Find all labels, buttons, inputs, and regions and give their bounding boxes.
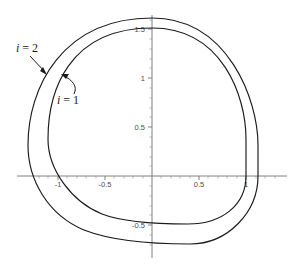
y-tick-label: 0.5 [135, 123, 145, 132]
y-tick-labels: -0.5 0.5 1 1.5 [132, 25, 145, 230]
x-tick-label: 0.5 [194, 180, 204, 189]
x-tick-label: -0.5 [99, 180, 112, 189]
x-tick-labels: -1 -0.5 0.5 1 [55, 180, 248, 189]
annotation-i2-label: i= 2 [16, 41, 38, 55]
y-tick-label: 1 [141, 74, 145, 83]
curve-i1 [48, 28, 246, 224]
annotation-i2-value: = 2 [22, 41, 38, 55]
annotation-i2-symbol: i [16, 41, 19, 55]
annotation-i1-value: = 1 [63, 93, 79, 107]
annotation-i1-label: i= 1 [57, 93, 79, 107]
annotation-i1-arrow [64, 76, 75, 94]
annotation-i1-symbol: i [57, 93, 60, 107]
plot-figure: -1 -0.5 0.5 1 -0.5 0.5 1 1.5 i= 2 i= 1 [0, 0, 295, 266]
y-axis-major-ticks [148, 29, 152, 225]
x-tick-label: -1 [55, 180, 62, 189]
annotation-i2: i= 2 [16, 41, 47, 75]
plot-canvas: -1 -0.5 0.5 1 -0.5 0.5 1 1.5 i= 2 i= 1 [0, 0, 295, 266]
y-tick-label: 1.5 [135, 25, 145, 34]
